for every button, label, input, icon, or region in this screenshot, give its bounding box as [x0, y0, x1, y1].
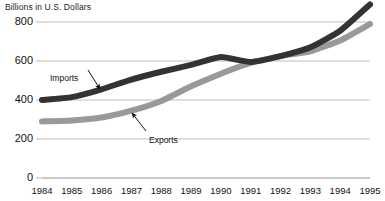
x-axis-tick-label: 1986 — [86, 186, 118, 196]
series-line-exports — [42, 24, 370, 122]
y-axis-tick-label: 800 — [3, 16, 33, 27]
x-axis-tick-label: 1988 — [145, 186, 177, 196]
y-axis-tick-label: 400 — [3, 94, 33, 105]
annotation-arrow — [88, 70, 100, 89]
x-axis-tick-label: 1987 — [115, 186, 147, 196]
x-axis-tick-label: 1991 — [235, 186, 267, 196]
x-axis-tick-label: 1990 — [205, 186, 237, 196]
y-axis-tick-label: 0 — [3, 172, 33, 183]
x-axis-tick-label: 1993 — [294, 186, 326, 196]
x-axis-tick-label: 1985 — [56, 186, 88, 196]
x-axis-tick-label: 1994 — [324, 186, 356, 196]
y-axis-tick-label: 200 — [3, 133, 33, 144]
series-annotation-label: Exports — [149, 136, 178, 145]
series-annotation-label: Imports — [50, 74, 78, 83]
x-axis-tick-label: 1984 — [26, 186, 58, 196]
series-line-imports — [42, 4, 370, 100]
annotation-arrow — [132, 113, 146, 131]
x-axis-tick-label: 1989 — [175, 186, 207, 196]
y-axis-tick-label: 600 — [3, 55, 33, 66]
x-axis-tick-label: 1992 — [265, 186, 297, 196]
x-axis-tick-label: 1995 — [354, 186, 385, 196]
